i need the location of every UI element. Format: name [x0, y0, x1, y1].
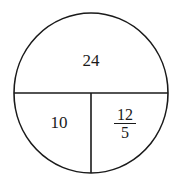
top-region-label: 24	[78, 51, 104, 71]
circle-diagram	[0, 0, 176, 186]
fraction-numerator: 12	[114, 106, 136, 124]
bottom-left-region-label: 10	[47, 113, 71, 133]
fraction-denominator: 5	[114, 124, 136, 141]
bottom-right-region-fraction: 12 5	[114, 106, 136, 141]
